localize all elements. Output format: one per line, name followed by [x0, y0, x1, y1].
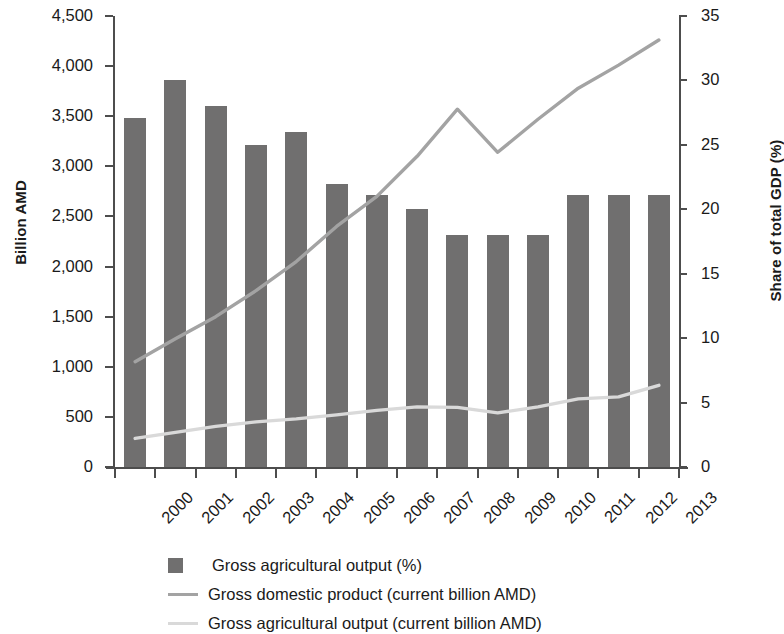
x-axis-tick	[356, 469, 358, 478]
y-axis-left-title: Billion AMD	[12, 143, 29, 303]
x-axis-tick-label: 2007	[440, 488, 479, 527]
y-axis-left-tick-label: 3,500	[52, 107, 93, 124]
y-axis-right-title: Share of total GDP (%)	[767, 111, 784, 331]
x-axis-tick-label: 2001	[198, 488, 237, 527]
y-axis-right-tick	[679, 15, 687, 17]
square-swatch-icon	[168, 558, 183, 573]
y-axis-left-tick-label: 1,500	[52, 308, 93, 325]
x-axis-tick	[477, 469, 479, 478]
legend-item-gross-agricultural-output-amd[interactable]: Gross agricultural output (current billi…	[168, 610, 728, 634]
y-axis-left-tick	[105, 115, 113, 117]
x-axis-tick	[597, 469, 599, 478]
x-axis-tick-label: 2006	[400, 488, 439, 527]
y-axis-right-tick-label: 15	[701, 265, 719, 282]
legend-marker-wrap	[168, 593, 208, 596]
y-axis-left-tick	[105, 215, 113, 217]
y-axis-right-tick	[679, 337, 687, 339]
x-axis-tick-label: 2011	[601, 488, 640, 527]
y-axis-left-tick	[105, 15, 113, 17]
x-axis-tick	[638, 469, 640, 478]
plot-area: 05001,0001,5002,0002,5003,0003,5004,0004…	[115, 16, 679, 467]
legend-marker-wrap	[168, 622, 208, 625]
y-axis-left-tick	[105, 65, 113, 67]
y-axis-right-tick-label: 35	[701, 7, 719, 24]
y-axis-right-tick	[679, 273, 687, 275]
y-axis-right-tick	[679, 208, 687, 210]
y-axis-left-tick	[105, 266, 113, 268]
y-axis-left-tick	[105, 416, 113, 418]
x-axis-tick-label: 2002	[238, 488, 277, 527]
line-series-group	[115, 16, 679, 467]
y-axis-left-tick-label: 3,000	[52, 157, 93, 174]
x-axis-tick-label: 2013	[682, 488, 721, 527]
x-axis-tick-label: 2008	[480, 488, 519, 527]
x-axis-tick	[557, 469, 559, 478]
y-axis-left-tick	[105, 316, 113, 318]
chart-legend: Gross agricultural output (%) Gross dome…	[168, 552, 728, 634]
y-axis-left-tick-label: 1,000	[52, 358, 93, 375]
x-axis-tick-label: 2000	[158, 488, 197, 527]
y-axis-right-tick	[679, 466, 687, 468]
line-gross-agricultural-output-amd	[135, 385, 659, 438]
x-axis-tick-label: 2003	[279, 488, 318, 527]
x-axis-tick	[396, 469, 398, 478]
y-axis-left-tick-label: 4,000	[52, 57, 93, 74]
y-axis-right-tick	[679, 402, 687, 404]
x-axis-tick	[154, 469, 156, 478]
x-axis-tick	[195, 469, 197, 478]
legend-label: Gross domestic product (current billion …	[208, 585, 536, 604]
x-axis-tick-label: 2009	[520, 488, 559, 527]
line-swatch-icon	[168, 593, 198, 596]
x-axis-tick	[436, 469, 438, 478]
x-axis-tick-label: 2005	[359, 488, 398, 527]
legend-item-gross-agricultural-output-pct[interactable]: Gross agricultural output (%)	[168, 552, 728, 579]
x-axis-tick	[235, 469, 237, 478]
y-axis-right-tick-label: 20	[701, 200, 719, 217]
legend-marker-wrap	[168, 558, 208, 573]
x-axis-tick	[517, 469, 519, 478]
y-axis-left-tick-label: 4,500	[52, 7, 93, 24]
legend-label: Gross agricultural output (%)	[212, 556, 422, 575]
y-axis-left-tick-label: 2,000	[52, 258, 93, 275]
y-axis-left-tick-label: 500	[65, 408, 93, 425]
legend-item-gross-domestic-product[interactable]: Gross domestic product (current billion …	[168, 581, 728, 608]
x-axis-tick-label: 2004	[319, 488, 358, 527]
y-axis-right-tick	[679, 79, 687, 81]
y-axis-left-tick-label: 2,500	[52, 207, 93, 224]
y-axis-left-tick-label: 0	[84, 458, 93, 475]
line-swatch-icon	[168, 622, 198, 625]
x-axis-tick	[275, 469, 277, 478]
x-axis-tick	[114, 469, 116, 478]
y-axis-left-tick	[105, 466, 113, 468]
y-axis-right-tick-label: 30	[701, 71, 719, 88]
y-axis-right-tick-label: 5	[701, 394, 710, 411]
x-axis-tick-label: 2010	[561, 488, 600, 527]
y-axis-left-tick	[105, 165, 113, 167]
x-axis-tick	[315, 469, 317, 478]
y-axis-right-line	[679, 16, 681, 467]
y-axis-right-tick-label: 0	[701, 458, 710, 475]
x-axis-tick-label: 2012	[641, 488, 680, 527]
y-axis-left-tick	[105, 366, 113, 368]
x-axis-tick	[678, 469, 680, 478]
y-axis-right-tick	[679, 144, 687, 146]
y-axis-right-tick-label: 10	[701, 329, 719, 346]
legend-label: Gross agricultural output (current billi…	[208, 614, 542, 633]
line-gross-domestic-product	[135, 40, 659, 362]
y-axis-right-tick-label: 25	[701, 136, 719, 153]
